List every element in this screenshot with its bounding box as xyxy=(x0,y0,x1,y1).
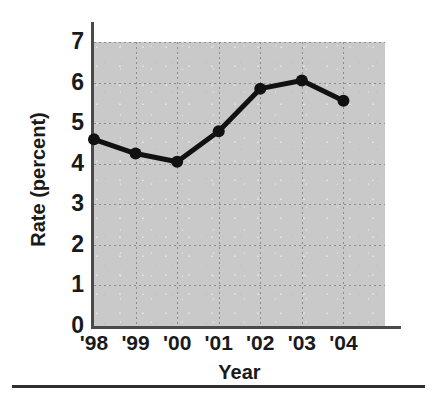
data-series xyxy=(94,42,385,326)
footer-rule xyxy=(12,385,425,388)
plot-area xyxy=(94,42,385,326)
x-axis-title: Year xyxy=(94,361,385,384)
y-axis-title: Rate (percent) xyxy=(27,80,50,280)
y-tick-label: 5 xyxy=(58,111,84,134)
data-point-marker xyxy=(337,95,349,107)
y-tick-label: 7 xyxy=(58,30,84,53)
y-tick-label: 3 xyxy=(58,192,84,215)
series-markers xyxy=(88,75,349,168)
data-point-marker xyxy=(213,125,225,137)
line-chart-figure: Rate (percent) 76543210 '98'99'00'01'02'… xyxy=(0,0,436,399)
data-point-marker xyxy=(254,83,266,95)
x-axis-line xyxy=(91,326,401,329)
y-tick-label: 4 xyxy=(58,152,84,175)
x-tick-label: '04 xyxy=(313,331,373,354)
x-axis-tick-labels: '98'99'00'01'02'03'04 xyxy=(94,331,385,361)
y-tick-label: 1 xyxy=(58,273,84,296)
y-tick-label: 6 xyxy=(58,71,84,94)
data-point-marker xyxy=(88,133,100,145)
data-point-marker xyxy=(171,156,183,168)
y-tick-label: 2 xyxy=(58,233,84,256)
data-point-marker xyxy=(130,148,142,160)
data-point-marker xyxy=(296,75,308,87)
